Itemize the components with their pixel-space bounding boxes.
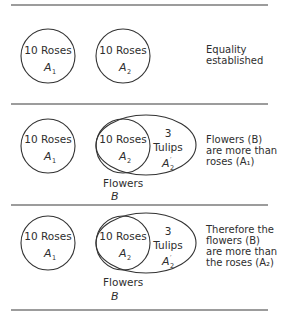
set-a1-var: A: [43, 150, 52, 163]
tulips-var: A: [161, 255, 170, 268]
tulips-prime: ′: [170, 156, 172, 164]
set-a2-circle: [96, 29, 150, 83]
set-a1-var: A: [43, 61, 52, 74]
set-a1-label: 10 Roses: [24, 44, 71, 56]
tulips-sub: 2: [170, 262, 174, 270]
set-a2-label: 10 Roses: [99, 230, 146, 242]
set-a1-var: A: [43, 247, 52, 260]
set-a1-label: 10 Roses: [24, 133, 71, 145]
tulips-label: Tulips: [152, 239, 182, 251]
panel-equality: 10 Roses A 1 10 Roses A 2: [21, 29, 150, 83]
tulips-sub: 2: [170, 164, 174, 172]
set-a2-label: 10 Roses: [99, 44, 146, 56]
set-b-label: Flowers: [103, 177, 143, 189]
set-a1-circle: [21, 119, 75, 173]
set-a2-var: A: [118, 247, 127, 260]
set-a2-label: 10 Roses: [99, 133, 146, 145]
tulips-label: Tulips: [152, 141, 182, 153]
set-a2-sub: 2: [127, 157, 131, 165]
set-a2-circle: [96, 216, 150, 270]
set-a1-sub: 1: [52, 68, 56, 76]
set-a2-sub: 2: [127, 68, 131, 76]
set-b-label: Flowers: [103, 276, 143, 288]
note-therefore: Therefore the flowers (B) are more than …: [206, 224, 277, 268]
set-b-var: B: [111, 190, 119, 203]
set-a2-var: A: [118, 61, 127, 74]
panel-flowers-more-than-a1: 10 Roses A 1 10 Roses A 2 3 Tulips A 2 ′…: [21, 115, 196, 203]
tulips-count: 3: [165, 225, 172, 237]
set-a2-circle: [96, 119, 150, 173]
set-a2-sub: 2: [127, 254, 131, 262]
set-a1-circle: [21, 29, 75, 83]
set-a1-sub: 1: [52, 254, 56, 262]
tulips-var: A: [161, 157, 170, 170]
note-flowers-more-than-a1: Flowers (B) are more than roses (A₁): [206, 134, 277, 167]
set-a2-var: A: [118, 150, 127, 163]
set-a1-sub: 1: [52, 157, 56, 165]
set-a1-circle: [21, 216, 75, 270]
tulips-count: 3: [165, 127, 172, 139]
set-a1-label: 10 Roses: [24, 230, 71, 242]
note-equality: Equality established: [206, 44, 263, 66]
panel-therefore: 10 Roses A 1 10 Roses A 2 3 Tulips A 2 ′…: [21, 213, 196, 303]
tulips-prime: ′: [170, 254, 172, 262]
set-b-var: B: [111, 290, 119, 303]
